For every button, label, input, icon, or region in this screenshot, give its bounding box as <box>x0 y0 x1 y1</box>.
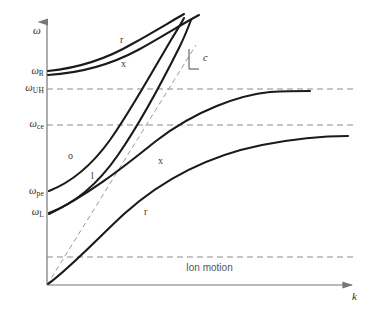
slope-bracket-icon <box>189 49 199 69</box>
curve-x-lower <box>49 91 310 214</box>
curve-l <box>49 20 191 213</box>
curve-x-upper <box>48 15 199 75</box>
curve-o <box>49 18 184 191</box>
curve-r-upper <box>48 14 184 71</box>
asymptote-c-line <box>47 45 196 285</box>
dispersion-diagram-figure: ω k ωR ωUH ωce ωpe ωL r x o l x r c Ion … <box>0 0 376 310</box>
light-line-asymptote <box>47 45 199 285</box>
reference-dashed-lines <box>47 89 355 257</box>
plot-canvas <box>0 0 376 310</box>
dispersion-curves <box>48 14 348 284</box>
